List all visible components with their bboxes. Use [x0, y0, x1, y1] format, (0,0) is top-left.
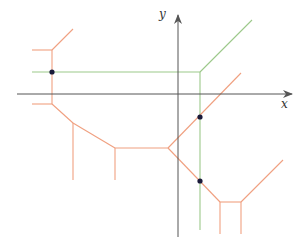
- intersection-point: [197, 178, 202, 183]
- coordinate-axes: x y: [17, 7, 292, 237]
- red-curve-segment: [52, 29, 73, 50]
- red-curve-left: [32, 29, 168, 180]
- red-curve-right: [168, 73, 283, 234]
- intersection-point: [49, 69, 54, 74]
- red-curve-segment: [168, 73, 241, 148]
- red-curve-segment: [52, 104, 73, 123]
- red-curve-segment: [168, 148, 220, 202]
- intersection-point: [197, 114, 202, 119]
- red-curve-segment: [241, 160, 283, 202]
- tropical-curves-diagram: x y: [0, 0, 308, 247]
- y-axis-label: y: [158, 7, 166, 21]
- green-curve-segment: [200, 20, 252, 72]
- red-curve-segment: [73, 123, 115, 148]
- x-axis-label: x: [281, 97, 288, 111]
- green-curve: [32, 20, 252, 230]
- intersection-points: [49, 69, 202, 183]
